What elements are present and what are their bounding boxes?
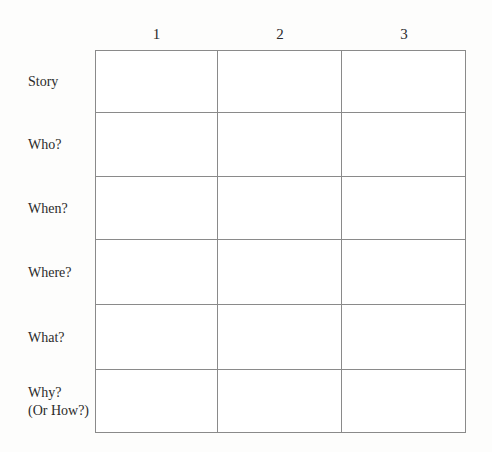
row-label-why-or-how: Why? (Or How?) [0,370,95,433]
table-cell[interactable] [218,305,342,369]
table-cell[interactable] [218,240,342,304]
row-label-where: Where? [0,240,95,305]
row-label-what: What? [0,305,95,370]
table-cell[interactable] [96,113,218,176]
table-cell[interactable] [96,240,218,304]
column-header-3: 3 [342,22,466,46]
column-header-1: 1 [95,22,218,46]
table-cell[interactable] [96,51,218,112]
table-cell[interactable] [342,177,465,239]
table-cell[interactable] [96,370,218,432]
table-row [96,113,465,177]
worksheet-table [95,50,466,433]
table-row [96,305,465,370]
row-label-column: Story Who? When? Where? What? Why? (Or H… [0,50,95,433]
table-cell[interactable] [218,177,342,239]
table-cell[interactable] [218,113,342,176]
table-cell[interactable] [342,370,465,432]
row-label-who: Who? [0,113,95,177]
table-cell[interactable] [342,240,465,304]
table-cell[interactable] [218,51,342,112]
table-row [96,51,465,113]
table-cell[interactable] [342,305,465,369]
column-header-2: 2 [218,22,342,46]
table-row [96,370,465,432]
table-cell[interactable] [218,370,342,432]
row-label-story: Story [0,50,95,113]
worksheet-grid-page: 1 2 3 Story Who? When? Where? What? Why?… [0,0,492,452]
table-cell[interactable] [96,177,218,239]
table-cell[interactable] [342,51,465,112]
table-cell[interactable] [96,305,218,369]
column-header-row: 1 2 3 [95,22,466,46]
table-row [96,177,465,240]
table-cell[interactable] [342,113,465,176]
row-label-when: When? [0,177,95,240]
table-row [96,240,465,305]
